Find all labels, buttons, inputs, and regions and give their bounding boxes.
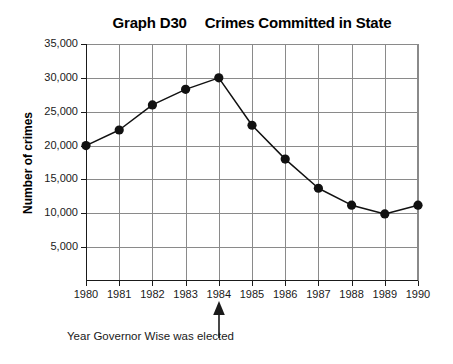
plot-area <box>86 44 418 281</box>
y-tick-label: 30,000 <box>8 71 78 83</box>
x-tick-mark <box>318 281 319 286</box>
y-tick-label: 20,000 <box>8 139 78 151</box>
annotation-caption: Year Governor Wise was elected <box>0 330 377 342</box>
series-line <box>86 78 418 214</box>
y-tick-label: 35,000 <box>8 37 78 49</box>
x-tick-mark <box>385 281 386 286</box>
x-tick-mark <box>285 281 286 286</box>
y-tick-label: 15,000 <box>8 172 78 184</box>
x-tick-mark <box>119 281 120 286</box>
data-point-1980 <box>81 141 90 150</box>
data-point-1983 <box>181 85 190 94</box>
y-tick-label: 25,000 <box>8 105 78 117</box>
x-tick-mark <box>186 281 187 286</box>
x-tick-mark <box>352 281 353 286</box>
gridline-vertical <box>418 44 419 281</box>
data-point-1986 <box>281 155 290 164</box>
data-point-1990 <box>413 201 422 210</box>
x-tick-mark <box>152 281 153 286</box>
x-tick-label: 1990 <box>395 288 441 300</box>
x-tick-mark <box>219 281 220 286</box>
chart-title: Graph D30 Crimes Committed in State <box>86 11 418 33</box>
x-tick-mark <box>418 281 419 286</box>
data-point-1989 <box>380 209 389 218</box>
y-tick-label: 5,000 <box>8 240 78 252</box>
chart-title-subject: Crimes Committed in State <box>205 14 392 31</box>
x-tick-mark <box>252 281 253 286</box>
chart-figure: Graph D30 Crimes Committed in State Numb… <box>0 0 453 364</box>
data-series-crimes <box>86 44 418 281</box>
data-point-1982 <box>148 100 157 109</box>
data-point-1984 <box>214 73 223 82</box>
data-point-1988 <box>347 201 356 210</box>
x-tick-mark <box>86 281 87 286</box>
y-tick-label: 10,000 <box>8 206 78 218</box>
chart-title-label: Graph D30 <box>113 14 187 31</box>
data-point-1985 <box>247 121 256 130</box>
data-point-1987 <box>314 184 323 193</box>
data-point-1981 <box>115 125 124 134</box>
